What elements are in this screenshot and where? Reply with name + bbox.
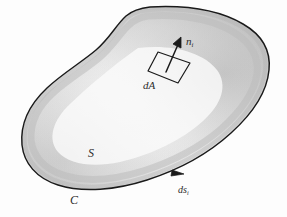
- arc-element-label-sub: i: [187, 189, 189, 196]
- boundary-curve-label: C: [70, 194, 78, 206]
- arc-element-label-main: ds: [178, 184, 187, 195]
- ds-arrowhead-icon: [171, 170, 184, 176]
- area-element-label: dA: [143, 80, 155, 91]
- surface-label: S: [88, 147, 94, 159]
- arc-element-arrow: [171, 170, 184, 176]
- surface-region: [0, 0, 287, 217]
- normal-vector-label: ni: [186, 36, 193, 49]
- normal-vector-label-sub: i: [192, 41, 194, 48]
- surface-shading-overlays: [0, 0, 287, 217]
- figure-canvas: [0, 0, 287, 217]
- arc-element-label: dsi: [178, 185, 189, 196]
- surface-integral-figure: ni dA S C dsi: [0, 0, 287, 217]
